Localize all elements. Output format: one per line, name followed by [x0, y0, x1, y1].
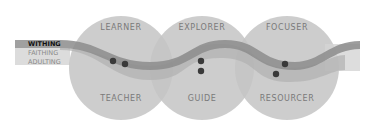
label-guide: GUIDE [162, 94, 242, 103]
label-explorer: EXPLORER [162, 23, 242, 32]
dot [282, 61, 288, 67]
legend-withing: WITHING [28, 40, 61, 48]
diagram: LEARNER EXPLORER FOCUSER TEACHER GUIDE R… [0, 0, 379, 121]
dot [273, 71, 279, 77]
label-teacher: TEACHER [81, 94, 161, 103]
label-resourcer: RESOURCER [247, 94, 327, 103]
dot [110, 58, 116, 64]
label-learner: LEARNER [81, 23, 161, 32]
dot [198, 58, 204, 64]
legend-adulting: ADULTING [28, 58, 61, 66]
dot [198, 68, 204, 74]
label-focuser: FOCUSER [247, 23, 327, 32]
legend-faithing: FAITHING [28, 49, 58, 57]
dot [122, 61, 128, 67]
